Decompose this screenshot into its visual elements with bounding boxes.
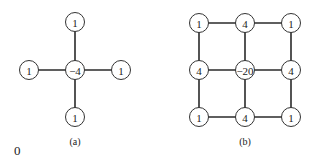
- diagram-canvas: 11−4111414−204141 (a)(b) 0: [0, 0, 317, 158]
- stray-zero-label: 0: [14, 143, 21, 158]
- node-label: 4: [196, 65, 202, 77]
- node-label: −4: [69, 65, 81, 77]
- node-label: 1: [26, 65, 32, 77]
- caption-0: (a): [69, 136, 80, 148]
- node-r0c2: 1: [282, 14, 301, 33]
- node-r0c0: 1: [190, 14, 209, 33]
- captions-layer: (a)(b): [69, 136, 250, 148]
- caption-1: (b): [239, 136, 251, 148]
- node-label: 4: [288, 65, 294, 77]
- node-r1c2: 4: [282, 61, 301, 80]
- node-label: 4: [242, 18, 248, 30]
- node-r2c1: 4: [236, 108, 255, 127]
- node-r1c1: −20: [236, 61, 255, 80]
- node-right: 1: [112, 61, 131, 80]
- node-r2c0: 1: [190, 108, 209, 127]
- node-label: 1: [288, 112, 294, 124]
- node-r1c0: 4: [190, 61, 209, 80]
- node-label: 1: [72, 17, 78, 29]
- node-center: −4: [66, 61, 85, 80]
- node-left: 1: [20, 61, 39, 80]
- node-label: 1: [72, 112, 78, 124]
- node-label: 1: [118, 65, 124, 77]
- node-label: 1: [196, 112, 202, 124]
- node-bottom: 1: [66, 108, 85, 127]
- node-label: 1: [288, 18, 294, 30]
- node-label: −20: [236, 65, 254, 77]
- node-label: 4: [242, 112, 248, 124]
- node-top: 1: [66, 13, 85, 32]
- node-r2c2: 1: [282, 108, 301, 127]
- node-label: 1: [196, 18, 202, 30]
- node-r0c1: 4: [236, 14, 255, 33]
